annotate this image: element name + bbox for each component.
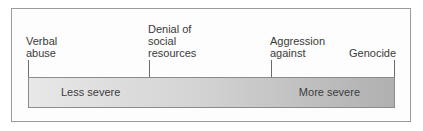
tick-aggression-against: [271, 60, 272, 77]
severity-gradient-bar: Less severe More severe: [28, 77, 395, 108]
label-line: Aggression: [270, 35, 325, 47]
label-line: resources: [148, 47, 196, 59]
label-genocide: Genocide: [349, 47, 396, 59]
tick-verbal-abuse: [28, 60, 29, 77]
label-line: Genocide: [349, 47, 396, 59]
label-line: against: [270, 47, 325, 59]
more-severe-label: More severe: [299, 86, 360, 99]
label-verbal-abuse: Verbal abuse: [26, 35, 57, 59]
label-line: social: [148, 35, 196, 47]
label-line: Denial of: [148, 23, 196, 35]
less-severe-label: Less severe: [61, 86, 120, 99]
label-denial-of-social-resources: Denial of social resources: [148, 23, 196, 59]
label-line: abuse: [26, 47, 57, 59]
tick-denial-of-social-resources: [149, 60, 150, 77]
tick-genocide: [394, 60, 395, 77]
label-line: Verbal: [26, 35, 57, 47]
label-aggression-against: Aggression against: [270, 35, 325, 59]
